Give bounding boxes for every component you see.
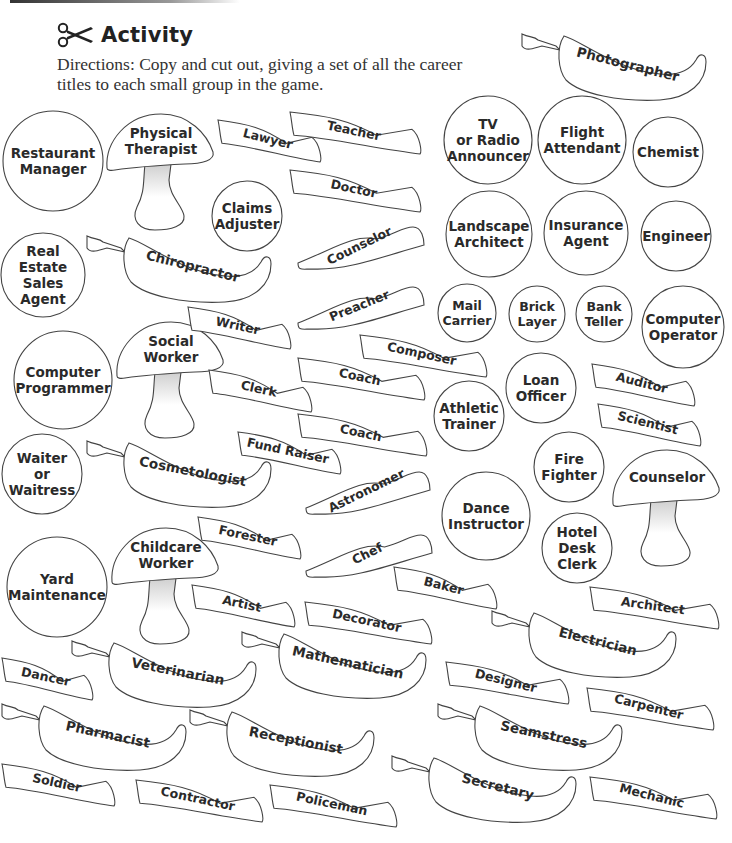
ribbon-card[interactable]: Forester xyxy=(196,515,304,561)
ribbon-card[interactable]: Dancer xyxy=(0,656,96,702)
circle-card[interactable]: Real Estate Sales Agent xyxy=(0,232,86,318)
circle-card[interactable]: Restaurant Manager xyxy=(2,110,104,212)
ribbon-card[interactable]: Designer xyxy=(444,660,572,706)
career-label: Computer Programmer xyxy=(13,330,113,430)
career-label: TV or Radio Announcer xyxy=(443,95,533,185)
ribbon-card[interactable]: Writer xyxy=(186,305,294,351)
ribbon-card[interactable]: Artist xyxy=(190,583,298,629)
circle-card[interactable]: Fire Fighter xyxy=(533,431,605,503)
career-label: Athletic Trainer xyxy=(433,380,505,452)
pepper-card[interactable]: Photographer xyxy=(520,30,716,104)
page-title: Activity xyxy=(101,23,193,47)
career-label: Counselor xyxy=(615,454,719,500)
career-label: Bank Teller xyxy=(575,285,633,343)
ribbon-card[interactable]: Carpenter xyxy=(585,686,717,732)
pepper-card[interactable]: Chiropractor xyxy=(85,232,281,306)
circle-card[interactable]: Engineer xyxy=(640,200,712,272)
mushroom-card[interactable]: Physical Therapist xyxy=(105,112,217,232)
ribbon-card[interactable]: Teacher xyxy=(288,110,424,156)
directions-text: Directions: Copy and cut out, giving a s… xyxy=(57,54,477,94)
circle-card[interactable]: Insurance Agent xyxy=(543,190,629,276)
pepper-card[interactable]: Secretary xyxy=(390,752,586,826)
career-label: Computer Operator xyxy=(641,285,725,369)
ribbon-card[interactable]: Preacher xyxy=(296,285,426,331)
circle-card[interactable]: Computer Programmer xyxy=(13,330,113,430)
activity-header: Activity xyxy=(57,22,193,48)
ribbon-card[interactable]: Contractor xyxy=(134,778,266,824)
career-label: Fire Fighter xyxy=(533,431,605,503)
circle-card[interactable]: Brick Layer xyxy=(508,285,566,343)
career-label: Flight Attendant xyxy=(537,95,627,185)
career-label: Waiter or Waitress xyxy=(1,433,83,515)
career-label: Restaurant Manager xyxy=(2,110,104,212)
ribbon-card[interactable]: Policeman xyxy=(268,783,400,829)
career-label: Yard Maintenance xyxy=(6,536,108,638)
ribbon-card[interactable]: Counselor xyxy=(296,225,426,271)
circle-card[interactable]: Computer Operator xyxy=(641,285,725,369)
ribbon-card[interactable]: Scientist xyxy=(596,402,704,448)
career-label: Landscape Architect xyxy=(445,190,533,278)
career-label: Real Estate Sales Agent xyxy=(0,232,86,318)
scissors-icon xyxy=(57,22,95,48)
career-label: Chemist xyxy=(632,116,704,188)
pepper-card[interactable]: Receptionist xyxy=(188,706,384,780)
ribbon-card[interactable]: Coach xyxy=(296,356,428,402)
ribbon-card[interactable]: Astronomer xyxy=(304,470,432,516)
career-label: Physical Therapist xyxy=(109,118,213,164)
career-label: Dance Instructor xyxy=(441,471,531,561)
career-label: Engineer xyxy=(640,200,712,272)
circle-card[interactable]: Landscape Architect xyxy=(445,190,533,278)
circle-card[interactable]: Hotel Desk Clerk xyxy=(541,512,613,584)
circle-card[interactable]: Yard Maintenance xyxy=(6,536,108,638)
circle-card[interactable]: Waiter or Waitress xyxy=(1,433,83,515)
career-label: Loan Officer xyxy=(505,352,577,424)
career-label: Brick Layer xyxy=(508,285,566,343)
circle-card[interactable]: Dance Instructor xyxy=(441,471,531,561)
circle-card[interactable]: Bank Teller xyxy=(575,285,633,343)
career-label: Hotel Desk Clerk xyxy=(541,512,613,584)
ribbon-card[interactable]: Decorator xyxy=(303,600,435,646)
circle-card[interactable]: Athletic Trainer xyxy=(433,380,505,452)
circle-card[interactable]: TV or Radio Announcer xyxy=(443,95,533,185)
circle-card[interactable]: Flight Attendant xyxy=(537,95,627,185)
ribbon-card[interactable]: Mechanic xyxy=(588,775,720,821)
top-rule xyxy=(10,0,240,3)
career-label: Insurance Agent xyxy=(543,190,629,276)
mushroom-card[interactable]: Counselor xyxy=(611,448,723,568)
ribbon-card[interactable]: Architect xyxy=(588,585,722,631)
ribbon-card[interactable]: Soldier xyxy=(0,762,118,808)
circle-card[interactable]: Loan Officer xyxy=(505,352,577,424)
circle-card[interactable]: Chemist xyxy=(632,116,704,188)
